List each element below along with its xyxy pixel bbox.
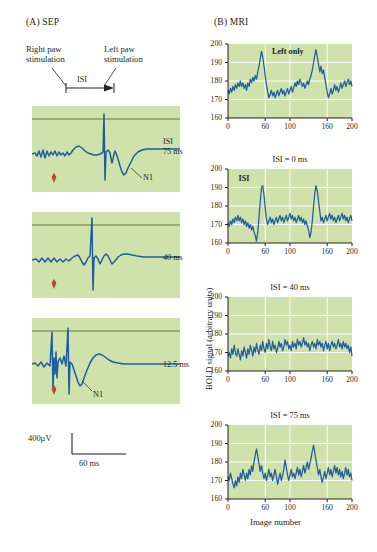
sep-trace-panel-2	[32, 212, 180, 298]
x-axis-tick-label: 200	[342, 375, 362, 384]
left-paw-stim-label-line1: Left paw	[104, 44, 135, 55]
y-axis-tick-label: 190	[204, 439, 222, 448]
scale-bar-vertical-label: 400µV	[28, 434, 51, 444]
x-axis-tick-label: 0	[218, 375, 238, 384]
x-axis-tick-label: 60	[255, 247, 275, 256]
plot-annotation: Left only	[272, 47, 304, 56]
stimulus-arrow-marker-2	[48, 278, 60, 290]
y-axis-tick-label: 180	[204, 457, 222, 466]
sep-ruler-2	[32, 298, 180, 305]
panel-b-label: (B) MRI	[214, 17, 248, 27]
x-axis-tick-label: 160	[317, 375, 337, 384]
x-axis-tick-label: 100	[280, 122, 300, 131]
panel-a-label: (A) SEP	[26, 17, 59, 27]
x-axis-tick-label: 160	[317, 503, 337, 512]
isi-bracket-diagram	[0, 66, 196, 98]
y-axis-tick-label: 190	[204, 311, 222, 320]
x-axis-tick-label: 60	[255, 122, 275, 131]
y-axis-tick-label: 200	[204, 164, 222, 173]
right-paw-stim-label-line2: stimulation	[26, 54, 65, 65]
x-axis-tick-label: 100	[280, 503, 300, 512]
plot-annotation: ISI	[239, 174, 250, 183]
trace-2-label-line2: 40 ms	[163, 253, 183, 263]
trace-1-n1-label: N1	[143, 173, 153, 183]
n1-leader-1	[131, 168, 142, 178]
y-axis-tick-label: 200	[204, 292, 222, 301]
trace-3-n1-label: N1	[93, 390, 103, 400]
sep-ruler-1	[32, 192, 180, 199]
y-axis-tick-label: 200	[204, 39, 222, 48]
mri-trace-svg	[196, 283, 377, 411]
y-axis-tick-label: 160	[204, 238, 222, 247]
sep-ruler-3	[32, 404, 180, 411]
sep-trace-panel-3	[32, 318, 180, 404]
x-axis-tick-label: 160	[317, 122, 337, 131]
x-axis-tick-label: 100	[280, 247, 300, 256]
x-axis-label: Image number	[250, 517, 301, 527]
y-axis-tick-label: 190	[204, 58, 222, 67]
y-axis-tick-label: 180	[204, 201, 222, 210]
mri-trace-svg	[196, 155, 377, 283]
y-axis-tick-label: 170	[204, 348, 222, 357]
left-paw-stim-label-line2: stimulation	[104, 54, 143, 65]
trace-3-label-line2: 12.5 ms	[163, 360, 189, 370]
mri-chart-isi-40: ISI = 40 ms200190180170160060100160200	[196, 283, 377, 401]
x-axis-tick-label: 200	[342, 247, 362, 256]
panel-b-mri: (B) MRI BOLD signal (arbitrary units) 20…	[196, 0, 377, 552]
isi-bracket-label: ISI	[77, 75, 87, 86]
scale-bar-horizontal-label: 60 ms	[79, 459, 99, 469]
trace-1-label-line1: ISI	[163, 137, 173, 147]
mri-chart-isi-75: ISI = 75 ms200190180170160060100160200Im…	[196, 411, 377, 547]
scale-bar	[70, 432, 140, 458]
panel-a-sep: (A) SEP Right paw stimulation Left paw s…	[0, 0, 196, 552]
y-axis-tick-label: 160	[204, 494, 222, 503]
y-axis-tick-label: 180	[204, 76, 222, 85]
x-axis-tick-label: 200	[342, 122, 362, 131]
sep-trace-panel-1	[32, 106, 180, 192]
trace-1-label-line2: 75 ms	[163, 147, 183, 157]
x-axis-tick-label: 100	[280, 375, 300, 384]
y-axis-tick-label: 190	[204, 183, 222, 192]
x-axis-tick-label: 0	[218, 503, 238, 512]
stimulus-arrow-marker-1	[48, 172, 60, 184]
x-axis-tick-label: 60	[255, 375, 275, 384]
y-axis-tick-label: 180	[204, 329, 222, 338]
x-axis-tick-label: 0	[218, 122, 238, 131]
y-axis-tick-label: 170	[204, 476, 222, 485]
y-axis-tick-label: 170	[204, 220, 222, 229]
x-axis-tick-label: 200	[342, 503, 362, 512]
x-axis-tick-label: 160	[317, 247, 337, 256]
n1-leader-3	[82, 381, 92, 391]
y-axis-tick-label: 200	[204, 420, 222, 429]
figure-root: (A) SEP Right paw stimulation Left paw s…	[0, 0, 377, 552]
right-paw-stim-label-line1: Right paw	[26, 44, 62, 55]
x-axis-tick-label: 60	[255, 503, 275, 512]
y-axis-tick-label: 160	[204, 113, 222, 122]
x-axis-tick-label: 0	[218, 247, 238, 256]
y-axis-tick-label: 160	[204, 366, 222, 375]
mri-chart-left-only: 200190180170160060100160200Left only	[196, 30, 377, 148]
mri-chart-isi-0: ISI = 0 ms200190180170160060100160200ISI	[196, 155, 377, 273]
stimulus-arrow-marker-3	[48, 384, 60, 396]
y-axis-tick-label: 170	[204, 95, 222, 104]
